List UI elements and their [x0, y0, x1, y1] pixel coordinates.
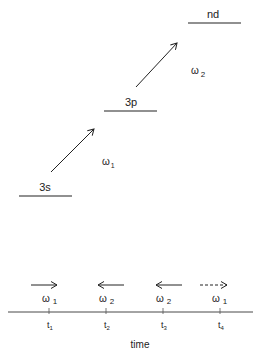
level-3p: 3p: [104, 96, 157, 111]
level-3s: 3s: [19, 181, 72, 196]
level-3p-label: 3p: [125, 96, 137, 108]
transition-arrow-2: [136, 43, 177, 87]
transition-arrow-1: [51, 129, 94, 172]
pulse-2-omega: ω2: [99, 293, 115, 306]
pulse-4: ω1 t4: [200, 285, 228, 331]
time-t2-label: t2: [104, 320, 111, 331]
level-nd: nd: [188, 8, 241, 23]
pulse-1: ω1 t1: [31, 285, 58, 331]
pulse-3: ω2 t3: [156, 285, 182, 331]
pulse-1-omega: ω1: [42, 293, 58, 306]
pulse-2: ω2 t2: [98, 285, 124, 331]
time-axis-label: time: [131, 339, 150, 350]
pulse-3-omega: ω2: [156, 293, 172, 306]
energy-level-diagram: 3s 3p nd ω1 ω2 ω1 t1 ω2 t2 ω2 t3 ω1: [0, 0, 259, 355]
pulse-4-omega: ω1: [212, 293, 228, 306]
time-t4-label: t4: [218, 320, 225, 331]
level-3s-label: 3s: [39, 181, 51, 193]
transition-2-label: ω2: [191, 65, 206, 79]
time-t3-label: t3: [161, 320, 168, 331]
transition-1-label: ω1: [102, 156, 115, 169]
level-nd-label: nd: [207, 8, 219, 20]
time-t1-label: t1: [47, 320, 54, 331]
